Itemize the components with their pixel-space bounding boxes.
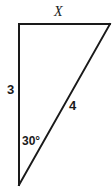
side-label-hypotenuse: 4 <box>69 99 76 112</box>
triangle-figure: X 3 4 30° <box>0 0 112 190</box>
triangle-shape <box>0 0 112 190</box>
side-label-left: 3 <box>7 83 14 96</box>
side-label-top: X <box>54 5 63 19</box>
triangle-side-hypotenuse <box>19 24 110 185</box>
angle-label: 30° <box>22 135 40 147</box>
